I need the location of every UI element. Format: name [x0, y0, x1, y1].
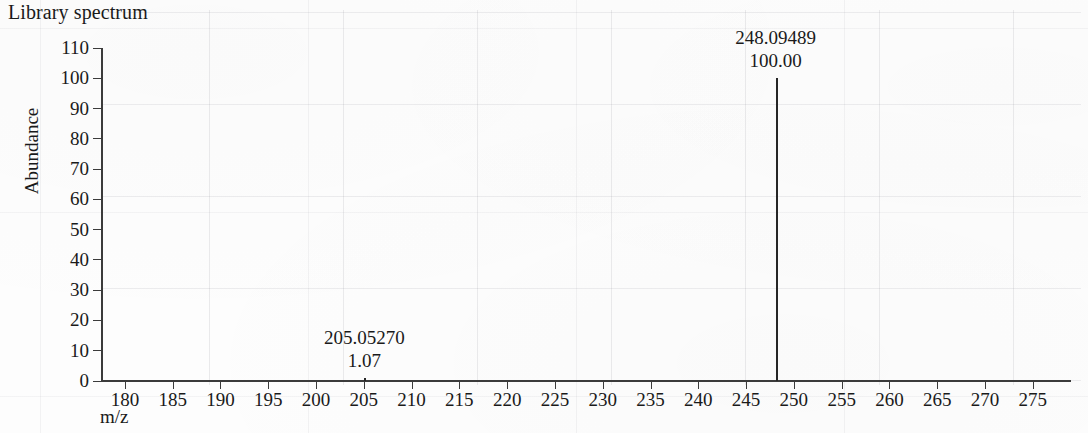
peak-mz-value: 248.09489	[686, 26, 866, 49]
y-axis-tick-label: 40	[45, 250, 89, 269]
x-axis-tick	[1033, 381, 1034, 389]
peak-abundance-value: 100.00	[686, 49, 866, 72]
x-axis-tick	[651, 381, 652, 389]
y-axis-tick-label: 100	[45, 68, 89, 87]
x-axis-tick	[316, 381, 317, 389]
y-axis-tick-label: 50	[45, 220, 89, 239]
y-axis-tick-label: 0	[45, 371, 89, 390]
peak-mz-value: 205.05270	[274, 326, 454, 349]
y-axis-label: Abundance	[21, 91, 43, 211]
x-axis-tick	[603, 381, 604, 389]
x-axis-tick	[842, 381, 843, 389]
y-axis-tick-label: 80	[45, 129, 89, 148]
peak-abundance-value: 1.07	[274, 349, 454, 372]
y-axis-tick-label: 70	[45, 159, 89, 178]
spectrum-peak	[364, 378, 366, 381]
x-axis-tick	[459, 381, 460, 389]
x-axis-tick	[125, 381, 126, 389]
y-axis-tick-label: 10	[45, 341, 89, 360]
plot-area	[101, 48, 1071, 381]
y-axis-tick-label: 30	[45, 280, 89, 299]
x-axis-tick	[507, 381, 508, 389]
y-axis-tick-label: 20	[45, 310, 89, 329]
y-axis-tick-label: 90	[45, 99, 89, 118]
peak-label: 205.052701.07	[274, 326, 454, 372]
mass-spectrum-figure: Library spectrum Abundance m/z 010203040…	[0, 0, 1088, 433]
y-axis-tick-label: 60	[45, 189, 89, 208]
chart-title: Library spectrum	[8, 0, 148, 24]
x-axis-tick	[555, 381, 556, 389]
x-axis-tick	[889, 381, 890, 389]
peak-label: 248.09489100.00	[686, 26, 866, 72]
x-axis-tick	[985, 381, 986, 389]
x-axis-tick	[268, 381, 269, 389]
x-axis-tick	[220, 381, 221, 389]
x-axis-tick	[698, 381, 699, 389]
x-axis-tick-label: 275	[1003, 390, 1063, 409]
x-axis-tick	[173, 381, 174, 389]
x-axis-tick	[364, 381, 365, 389]
x-axis-tick	[412, 381, 413, 389]
spectrum-peak	[776, 78, 778, 381]
y-axis-tick-label: 110	[45, 38, 89, 57]
x-axis-tick	[937, 381, 938, 389]
x-axis-tick	[794, 381, 795, 389]
x-axis-tick	[746, 381, 747, 389]
